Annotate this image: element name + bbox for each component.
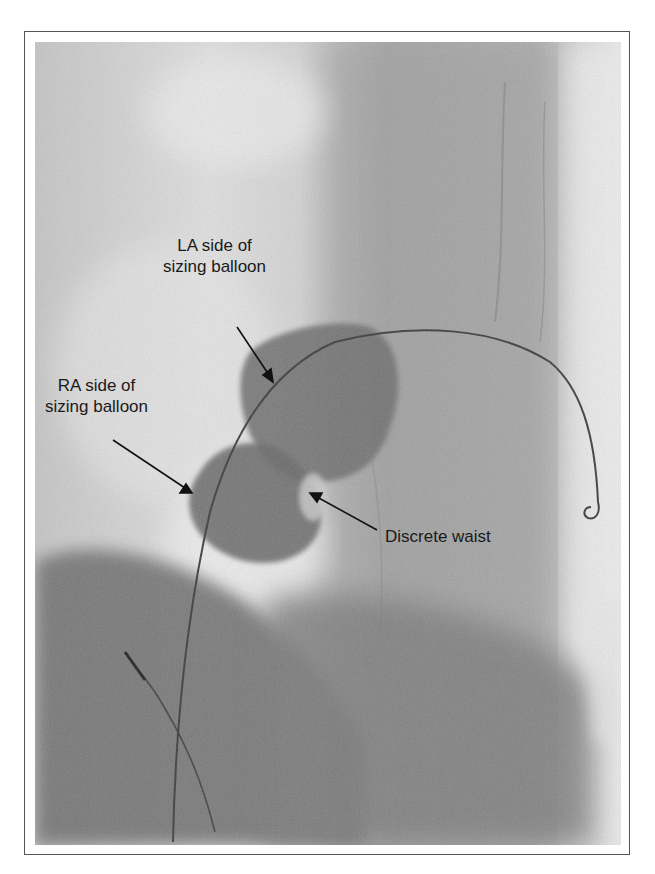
annotation-discrete-waist: Discrete waist xyxy=(385,526,491,547)
fluoroscopy-image: LA side of sizing balloon RA side of siz… xyxy=(35,42,621,845)
annotation-la-line-2: sizing balloon xyxy=(163,256,266,277)
annotation-ra-line-2: sizing balloon xyxy=(45,396,148,417)
annotation-ra-line-1: RA side of xyxy=(45,375,148,396)
annotation-waist-line-1: Discrete waist xyxy=(385,526,491,547)
annotation-la-line-1: LA side of xyxy=(163,235,266,256)
annotation-la-side: LA side of sizing balloon xyxy=(163,235,266,277)
annotation-ra-side: RA side of sizing balloon xyxy=(45,375,148,417)
